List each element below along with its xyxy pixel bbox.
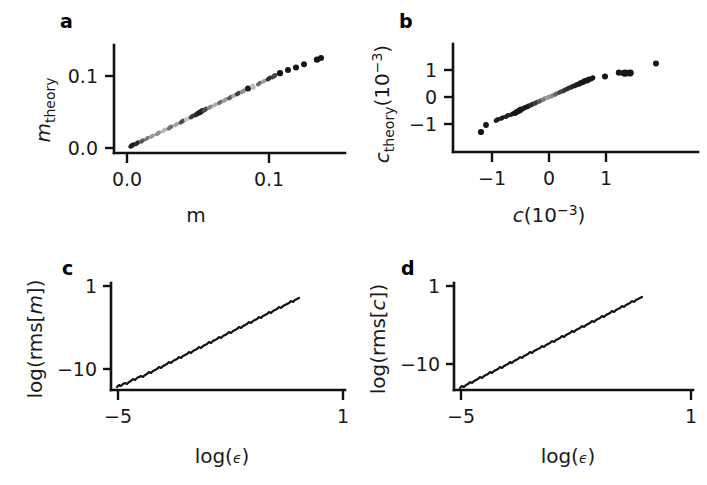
- panel-c-x-axis-title: log(ϵ): [195, 444, 250, 468]
- panel-b-ytick-label-1: 1: [425, 59, 437, 81]
- panel-b-ylabel-base: c: [370, 152, 394, 163]
- panel-a-scatter-series: [127, 55, 324, 150]
- panel-b-ylabel-paren-open: (10: [370, 73, 394, 106]
- panel-c-data-curve: [117, 298, 299, 387]
- panel-a-y-axis-title: mtheory: [31, 77, 58, 142]
- panel-b-plot: b 1 0 −1 −1 0 1 ctheory(10−3): [353, 0, 706, 242]
- panel-d-ytick-label-2: −10: [400, 353, 440, 375]
- svg-text:log(rms[m]): log(rms[m]): [23, 280, 47, 399]
- svg-text:log(rms[c]): log(rms[c]): [366, 284, 390, 394]
- panel-b-xtick-label-1: −1: [478, 167, 506, 189]
- panel-b-ytick-label-3: −1: [409, 113, 437, 135]
- panel-b-ytick-label-2: 0: [425, 86, 437, 108]
- panel-c-ylabel-pre: log(rms[: [23, 315, 47, 399]
- panel-c-xtick-label-2: 1: [337, 405, 349, 427]
- panel-a-ytick-label-1: 0.1: [68, 65, 98, 87]
- panel-b: b 1 0 −1 −1 0 1 ctheory(10−3): [353, 0, 706, 242]
- panel-d-xlabel-var: ϵ: [579, 450, 588, 466]
- panel-b-xtick-label-3: 1: [600, 167, 612, 189]
- panel-b-xlabel-paren-close: ): [578, 203, 586, 227]
- panel-d-ylabel-var: c: [366, 299, 390, 310]
- panel-b-x-axis-title: c(10−3): [513, 202, 586, 227]
- panel-b-ylabel-sub: theory: [381, 107, 397, 153]
- panel-c-xlabel-var: ϵ: [233, 450, 242, 466]
- panel-c-letter: c: [62, 257, 73, 279]
- panel-c-y-axis-title: log(rms[m]): [23, 280, 47, 399]
- panel-c-plot: c 1 −10 −5 1 log(rms[m]) log(ϵ): [0, 243, 353, 485]
- panel-b-xlabel-base: c: [513, 203, 524, 227]
- panel-c-xlabel-post: ): [242, 444, 250, 468]
- panel-d-x-axis-title: log(ϵ): [541, 444, 596, 468]
- figure-panel-grid: a 0.1 0.0 0.0 0.1 mtheory: [0, 0, 707, 485]
- panel-d-xlabel-pre: log(: [541, 444, 579, 468]
- panel-b-ylabel-exp: −3: [369, 53, 385, 74]
- panel-b-xlabel-exp: −3: [557, 202, 578, 218]
- panel-b-ylabel-paren-close: ): [370, 45, 394, 53]
- panel-a-ylabel-sub: theory: [42, 77, 58, 123]
- panel-d-xtick-label-2: 1: [685, 405, 697, 427]
- panel-a-ylabel-base: m: [31, 123, 55, 142]
- panel-d-ylabel-post: ]): [366, 284, 390, 300]
- panel-b-y-axis-title: ctheory(10−3): [369, 45, 397, 163]
- panel-c-ytick-label-2: −10: [57, 358, 97, 380]
- panel-b-scatter-series: [478, 60, 659, 135]
- panel-d: d 1 −10 −5 1 log(rms[c]) log(ϵ): [353, 243, 706, 485]
- panel-a-ytick-label-2: 0.0: [68, 137, 98, 159]
- panel-b-xlabel-paren-open: (10: [524, 203, 557, 227]
- panel-c-ytick-label-1: 1: [85, 275, 97, 297]
- panel-c-ylabel-var: m: [23, 295, 47, 314]
- panel-a-xtick-label-1: 0.0: [112, 168, 142, 190]
- panel-d-ytick-label-1: 1: [428, 275, 440, 297]
- panel-b-xtick-label-2: 0: [543, 167, 555, 189]
- panel-a-xtick-label-2: 0.1: [254, 168, 284, 190]
- panel-a-letter: a: [60, 10, 73, 32]
- panel-d-xtick-label-1: −5: [447, 405, 475, 427]
- panel-d-ylabel-pre: log(rms[: [366, 310, 390, 394]
- panel-c: c 1 −10 −5 1 log(rms[m]) log(ϵ): [0, 243, 353, 485]
- panel-d-letter: d: [401, 257, 415, 279]
- panel-d-data-curve: [460, 297, 642, 388]
- panel-c-xtick-label-1: −5: [104, 405, 132, 427]
- panel-d-xlabel-post: ): [588, 444, 596, 468]
- panel-c-ylabel-post: ]): [23, 280, 47, 296]
- panel-a: a 0.1 0.0 0.0 0.1 mtheory: [0, 0, 353, 242]
- svg-text:ctheory(10−3): ctheory(10−3): [369, 45, 397, 163]
- panel-d-y-axis-title: log(rms[c]): [366, 284, 390, 394]
- panel-b-letter: b: [399, 10, 413, 32]
- panel-a-plot: a 0.1 0.0 0.0 0.1 mtheory: [0, 0, 353, 242]
- panel-a-x-axis-title: m: [186, 203, 205, 227]
- panel-d-plot: d 1 −10 −5 1 log(rms[c]) log(ϵ): [353, 243, 706, 485]
- svg-text:mtheory: mtheory: [31, 77, 58, 142]
- panel-c-xlabel-pre: log(: [195, 444, 233, 468]
